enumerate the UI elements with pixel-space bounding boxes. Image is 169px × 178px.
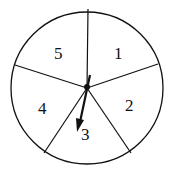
sector-label-2: 2 bbox=[125, 96, 134, 115]
sector-label-4: 4 bbox=[38, 99, 47, 118]
spinner-diagram: 1 2 3 4 5 bbox=[0, 0, 169, 178]
spinner-hub bbox=[84, 84, 90, 90]
sector-label-5: 5 bbox=[54, 44, 63, 63]
sector-label-1: 1 bbox=[114, 44, 123, 63]
sector-label-3: 3 bbox=[81, 125, 90, 144]
